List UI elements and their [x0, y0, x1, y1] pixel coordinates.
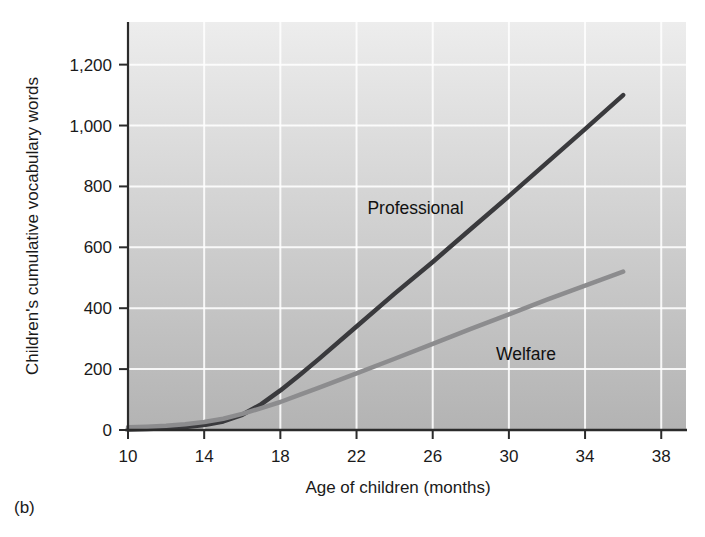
x-tick-label: 30 [499, 447, 518, 466]
y-axis-title: Children's cumulative vocabulary words [23, 16, 43, 436]
x-tick-label: 22 [347, 447, 366, 466]
x-tick-label: 38 [652, 447, 671, 466]
x-axis-title: Age of children (months) [148, 478, 648, 498]
figure-label: (b) [14, 498, 35, 518]
x-tick-label: 18 [271, 447, 290, 466]
line-chart: 1014182226303438 02004006008001,0001,200… [0, 0, 705, 537]
y-tick-label: 200 [84, 360, 112, 379]
x-tick-label: 34 [576, 447, 595, 466]
vocabulary-growth-figure: 1014182226303438 02004006008001,0001,200… [0, 0, 705, 537]
annotation-welfare: Welfare [496, 344, 556, 364]
x-tick-label: 26 [423, 447, 442, 466]
y-tick-label: 800 [84, 177, 112, 196]
y-tick-label: 1,000 [69, 117, 112, 136]
y-tick-label: 1,200 [69, 56, 112, 75]
y-tick-label: 400 [84, 299, 112, 318]
x-tick-label: 10 [119, 447, 138, 466]
x-tick-labels: 1014182226303438 [119, 447, 671, 466]
y-tick-label: 600 [84, 238, 112, 257]
y-tick-label: 0 [103, 421, 112, 440]
annotation-professional: Professional [367, 198, 463, 218]
x-tick-label: 14 [195, 447, 214, 466]
y-tick-labels: 02004006008001,0001,200 [69, 56, 112, 440]
